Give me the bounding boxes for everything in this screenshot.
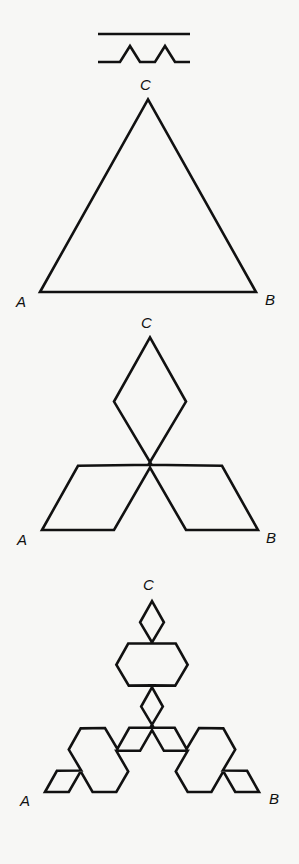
vertex-label-a: A [15,293,26,310]
generator-rule [98,34,190,62]
vertex-label-a: A [16,531,27,548]
koch-curve-iteration-1 [42,337,258,530]
figure-iteration-2: C A B [19,576,279,809]
vertex-label-c: C [143,576,154,593]
generator-segment [98,46,190,62]
figure-iteration-0: C A B [15,76,275,310]
vertex-label-b: B [266,529,276,546]
vertex-label-c: C [141,314,152,331]
vertex-label-b: B [269,790,279,807]
figure-iteration-1: C A B [16,314,276,548]
vertex-label-a: A [19,792,30,809]
vertex-label-b: B [265,291,275,308]
vertex-label-c: C [140,76,151,93]
koch-snowflake-diagram: C A B C A B C A B [0,0,299,864]
koch-curve-iteration-2 [45,601,259,792]
koch-curve-iteration-0 [40,99,256,292]
